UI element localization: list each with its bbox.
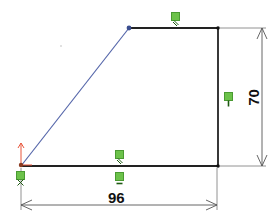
fix-icon[interactable] [16, 171, 25, 180]
parallel-icon[interactable] [115, 150, 124, 159]
dimension-value-horizontal[interactable]: 96 [108, 190, 125, 205]
vertical-icon[interactable] [224, 92, 233, 101]
endpoint-top-left[interactable] [127, 26, 132, 31]
horizontal-icon[interactable] [115, 172, 124, 181]
dimension-value-vertical[interactable]: 70 [246, 89, 261, 106]
endpoint-top-right[interactable] [216, 26, 220, 30]
sketch-line-angled[interactable] [21, 28, 129, 166]
grid-dot [60, 45, 62, 47]
sketch-canvas[interactable] [0, 0, 278, 223]
endpoint-bottom-right[interactable] [216, 164, 220, 168]
parallel-icon[interactable] [171, 12, 180, 21]
